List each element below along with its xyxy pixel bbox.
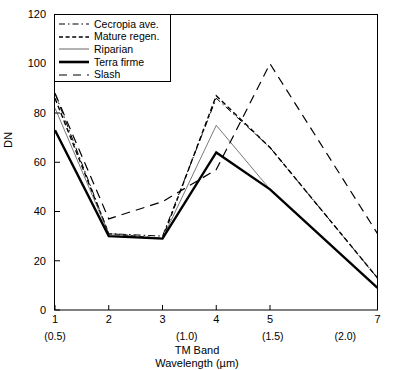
- legend-swatch-dash-dot-icon: [59, 19, 89, 29]
- x-tick-band-5: 5: [267, 313, 273, 325]
- legend-swatch-thin-solid-icon: [59, 44, 89, 54]
- series-line-riparian: [55, 108, 378, 288]
- chart-figure: DN 0 20 40 60 80 100 120 1 2 3 4 5 7 (0.…: [0, 0, 394, 370]
- x-wavelength-1-0: (1.0): [176, 330, 198, 342]
- series-line-cecropia-ave: [55, 93, 378, 278]
- legend-label-cecropia: Cecropia ave.: [94, 19, 159, 30]
- series-line-slash: [55, 64, 378, 234]
- legend-swatch-dashed-icon: [59, 32, 89, 42]
- legend-swatch-long-dash-icon: [59, 70, 89, 80]
- legend-label-terra-firme: Terra firme: [94, 57, 144, 68]
- legend: Cecropia ave. Mature regen. Riparian Ter…: [54, 14, 171, 82]
- legend-item-riparian: Riparian: [55, 43, 170, 56]
- x-wavelength-1-5: (1.5): [262, 330, 284, 342]
- legend-item-terra-firme: Terra firme: [55, 56, 170, 69]
- x-tick-band-1: 1: [52, 313, 58, 325]
- x-axis-title-line2: Wavelength (µm): [0, 357, 394, 370]
- legend-label-riparian: Riparian: [94, 44, 133, 55]
- series-line-mature-regen: [55, 96, 378, 278]
- legend-label-slash: Slash: [94, 69, 120, 80]
- legend-item-cecropia: Cecropia ave.: [55, 18, 170, 31]
- series-line-terra-firme: [55, 130, 378, 288]
- legend-item-slash: Slash: [55, 68, 170, 81]
- data-series-group: [55, 64, 378, 288]
- x-tick-band-7: 7: [374, 313, 380, 325]
- legend-swatch-thick-solid-icon: [59, 57, 89, 67]
- x-wavelength-0-5: (0.5): [44, 330, 66, 342]
- x-tick-band-2: 2: [106, 313, 112, 325]
- x-tick-band-4: 4: [213, 313, 219, 325]
- x-wavelength-2-0: (2.0): [334, 330, 356, 342]
- x-tick-band-3: 3: [159, 313, 165, 325]
- x-axis-title-line1: TM Band: [0, 344, 394, 357]
- legend-item-mature-regen: Mature regen.: [55, 31, 170, 44]
- x-tick-marks: [55, 305, 378, 310]
- legend-label-mature-regen: Mature regen.: [94, 31, 159, 42]
